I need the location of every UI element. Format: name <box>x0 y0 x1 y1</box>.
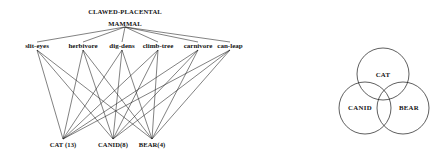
leaf-node-BEAR: BEAR(4) <box>139 141 166 149</box>
venn-label-CANID: CANID <box>348 104 372 111</box>
leaf-node-labels: CAT (13)CANID(8)BEAR(4) <box>50 141 166 149</box>
concept-hierarchy-figure: CLAWED-PLACENTAL MAMMAL slit-eyesherbivo… <box>0 0 443 164</box>
tree-root-label: CLAWED-PLACENTAL <box>88 8 162 15</box>
feature-node-slit-eyes: slit-eyes <box>25 42 49 50</box>
feature-node-climb-tree: climb-tree <box>143 42 174 50</box>
feature-node-can-leap: can-leap <box>217 42 242 50</box>
venn-label-BEAR: BEAR <box>399 104 419 111</box>
feature-node-carnivore: carnivore <box>184 42 213 50</box>
figure-background <box>0 0 443 164</box>
venn-label-CAT: CAT <box>376 71 391 78</box>
feature-node-herbivore: herbivore <box>68 42 97 50</box>
leaf-node-CAT: CAT (13) <box>50 141 77 149</box>
leaf-node-CANID: CANID(8) <box>98 141 128 149</box>
tree-root-sublabel: MAMMAL <box>108 20 142 27</box>
feature-node-dig-dens: dig-dens <box>109 42 135 50</box>
